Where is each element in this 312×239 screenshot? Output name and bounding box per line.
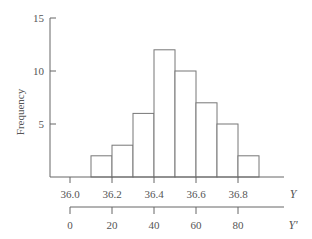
x-tick-label: 36.4 (144, 188, 164, 200)
histogram-bar (91, 156, 112, 177)
histogram-bar (238, 156, 259, 177)
histogram-bar (175, 71, 196, 177)
x2-tick-label: 20 (107, 219, 119, 231)
histogram-bar (112, 145, 133, 177)
y-tick-label: 10 (33, 65, 45, 77)
histogram-bars (91, 50, 259, 177)
x2-axis-label: Y' (288, 218, 298, 232)
histogram-bar (133, 113, 154, 177)
x2-tick-label: 60 (191, 219, 203, 231)
x-axis-label: Y (290, 187, 298, 201)
y-tick-label: 5 (39, 118, 45, 130)
y-axis-label: Frequency (14, 88, 26, 135)
y-tick-label: 15 (33, 12, 45, 24)
x2-tick-label: 40 (149, 219, 161, 231)
histogram-bar (196, 103, 217, 177)
x-tick-label: 36.8 (228, 188, 248, 200)
histogram-bar (217, 124, 238, 177)
x2-tick-label: 80 (233, 219, 245, 231)
x2-tick-label: 0 (67, 219, 73, 231)
histogram-chart: 15 10 5 Frequency 36.0 36.2 36.4 36.6 36… (0, 0, 312, 239)
x-tick-label: 36.2 (102, 188, 121, 200)
histogram-bar (154, 50, 175, 177)
x-tick-label: 36.6 (186, 188, 206, 200)
x-tick-label: 36.0 (60, 188, 80, 200)
